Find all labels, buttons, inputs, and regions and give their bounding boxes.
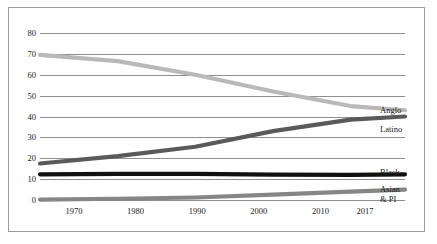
series-label-anglo: Anglo xyxy=(380,106,401,116)
series-label-asian-pi: Asian & PI xyxy=(380,185,400,204)
series-label-latino: Latino xyxy=(380,125,402,135)
series-labels: Anglo Latino Black Asian & PI xyxy=(0,0,437,244)
chart-figure: 80 70 60 50 40 30 20 10 0 1970 1980 199 xyxy=(0,0,437,244)
series-label-black: Black xyxy=(380,168,400,178)
